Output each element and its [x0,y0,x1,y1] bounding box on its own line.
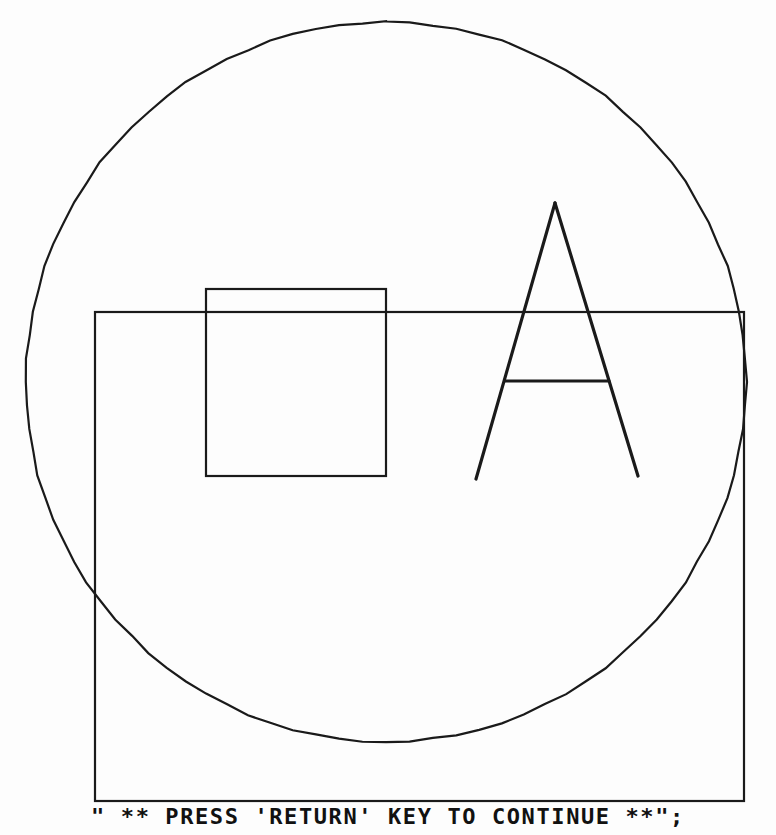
vector-plot-canvas: Vector graphics demo output [0,0,776,835]
prompt-line: " ** PRESS 'RETURN' KEY TO CONTINUE **"; [0,798,776,835]
letter-a-left-stroke [476,203,555,479]
outer-rectangle [95,312,744,801]
press-return-prompt-text: " ** PRESS 'RETURN' KEY TO CONTINUE **"; [91,806,685,828]
letter-a-right-stroke [555,203,638,476]
graphics-output-screen: Vector graphics demo output " ** PRESS '… [0,0,776,835]
inner-square [206,289,386,476]
